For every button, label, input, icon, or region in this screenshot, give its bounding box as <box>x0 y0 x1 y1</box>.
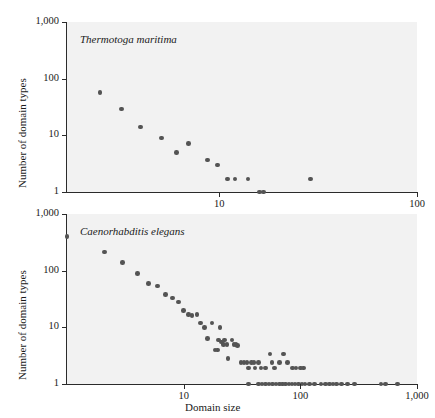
y-tick-top <box>62 192 67 193</box>
x-tick-top <box>417 192 418 197</box>
y-tick-bottom <box>62 327 67 328</box>
y-tick-label-top: 1,000 <box>15 15 59 26</box>
y-tick-bottom <box>62 384 67 385</box>
y-tick-top <box>62 79 67 80</box>
x-tick-label-bottom: 1,000 <box>392 390 435 401</box>
y-tick-bottom <box>62 214 67 215</box>
y-tick-label-top: 100 <box>15 72 59 83</box>
axis-ticks-bottom: 1101001,000101001,000 <box>0 205 435 418</box>
y-tick-label-bottom: 1 <box>15 377 59 388</box>
y-tick-label-bottom: 100 <box>15 264 59 275</box>
y-tick-top <box>62 135 67 136</box>
x-tick-bottom <box>300 384 301 389</box>
x-tick-top <box>219 192 220 197</box>
y-tick-label-top: 1 <box>15 185 59 196</box>
figure-container: Thermotoga maritima Number of domain typ… <box>0 0 435 418</box>
y-tick-top <box>62 22 67 23</box>
x-tick-bottom <box>417 384 418 389</box>
x-tick-label-bottom: 10 <box>159 390 209 401</box>
y-tick-label-bottom: 1,000 <box>15 207 59 218</box>
panel-thermotoga-maritima: Thermotoga maritima Number of domain typ… <box>0 0 435 205</box>
y-tick-label-bottom: 10 <box>15 320 59 331</box>
y-tick-label-top: 10 <box>15 128 59 139</box>
x-tick-label-bottom: 100 <box>275 390 325 401</box>
axis-ticks-top: 1101001,00010100 <box>0 0 435 205</box>
x-tick-bottom <box>184 384 185 389</box>
panel-caenorhabditis-elegans: Caenorhabditis elegans Number of domain … <box>0 205 435 418</box>
y-tick-bottom <box>62 271 67 272</box>
